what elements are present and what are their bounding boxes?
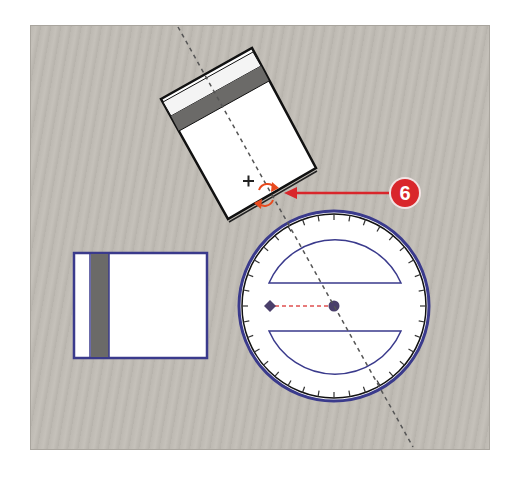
protractor[interactable] — [239, 211, 429, 401]
callout-number: 6 — [399, 182, 410, 204]
pivot-point-icon[interactable] — [329, 301, 340, 312]
reference-object[interactable] — [74, 253, 207, 358]
diagram-scene: 6 — [0, 0, 521, 478]
callout-badge: 6 — [389, 177, 421, 209]
reference-object-band — [91, 254, 109, 357]
callout-arrow — [284, 187, 390, 199]
